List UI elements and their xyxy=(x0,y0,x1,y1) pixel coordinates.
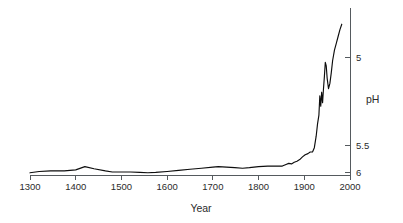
y-tick-label: 6 xyxy=(356,167,361,178)
y-tick-label: 5 xyxy=(356,52,361,63)
x-tick-label: 1600 xyxy=(157,181,178,192)
x-tick-label: 1500 xyxy=(111,181,132,192)
ph-line-chart: 13001400150016001700180019002000 55.56 Y… xyxy=(0,0,403,223)
x-axis-title: Year xyxy=(190,202,212,214)
y-axis-ticks: 55.56 xyxy=(345,52,369,178)
x-tick-label: 1300 xyxy=(19,181,40,192)
chart-canvas: 13001400150016001700180019002000 55.56 Y… xyxy=(0,0,403,223)
x-tick-label: 1800 xyxy=(248,181,269,192)
x-tick-label: 1900 xyxy=(294,181,315,192)
y-axis-title: pH xyxy=(366,93,379,105)
x-tick-label: 2000 xyxy=(339,181,360,192)
x-axis-ticks: 13001400150016001700180019002000 xyxy=(19,175,360,192)
y-tick-label: 5.5 xyxy=(356,140,369,151)
axes-group xyxy=(30,8,350,175)
x-tick-label: 1400 xyxy=(65,181,86,192)
x-tick-label: 1700 xyxy=(202,181,223,192)
data-series-group xyxy=(30,24,342,173)
ph-series-line xyxy=(30,24,342,173)
